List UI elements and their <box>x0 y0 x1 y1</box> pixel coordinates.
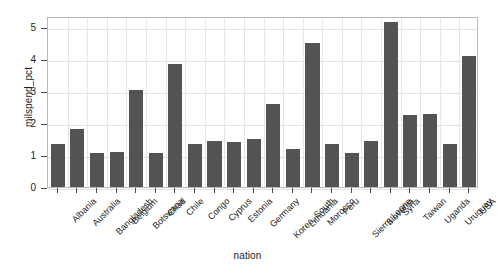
bar <box>149 153 163 187</box>
x-tick-mark <box>57 188 58 193</box>
bar <box>423 114 437 188</box>
x-tick-mark <box>429 188 430 193</box>
x-tick-label: Chad <box>165 196 187 218</box>
x-tick-mark <box>135 188 136 193</box>
bar <box>70 129 84 187</box>
x-tick-mark <box>76 188 77 193</box>
bar <box>364 141 378 187</box>
bar <box>462 56 476 187</box>
x-tick-mark <box>409 188 410 193</box>
x-tick-mark <box>233 188 234 193</box>
y-tick-label: 4 <box>10 55 36 65</box>
y-tick-label: 3 <box>10 87 36 97</box>
x-tick-mark <box>390 188 391 193</box>
bar <box>51 144 65 187</box>
bar <box>325 144 339 187</box>
plot-area <box>47 17 478 188</box>
x-tick-mark <box>351 188 352 193</box>
y-tick-label: 2 <box>10 119 36 129</box>
bar <box>443 144 457 187</box>
x-tick-mark <box>194 188 195 193</box>
x-tick-label: USA <box>478 196 498 216</box>
y-tick-label: 1 <box>10 151 36 161</box>
x-tick-mark <box>468 188 469 193</box>
x-tick-mark <box>174 188 175 193</box>
bar <box>168 64 182 187</box>
bar <box>266 104 280 187</box>
x-tick-mark <box>155 188 156 193</box>
x-axis-title: nation <box>0 250 495 261</box>
bar <box>403 115 417 187</box>
x-tick-mark <box>214 188 215 193</box>
bar <box>247 139 261 187</box>
bar <box>90 153 104 187</box>
y-tick-label: 5 <box>10 23 36 33</box>
bar <box>188 144 202 187</box>
bar <box>384 22 398 187</box>
bar <box>345 153 359 187</box>
y-tick-label: 0 <box>10 183 36 193</box>
bar <box>207 141 221 187</box>
x-tick-mark <box>253 188 254 193</box>
y-tick-mark <box>41 188 47 189</box>
x-tick-mark <box>272 188 273 193</box>
x-tick-mark <box>96 188 97 193</box>
bar <box>227 142 241 187</box>
x-tick-mark <box>116 188 117 193</box>
x-tick-label: Peru <box>341 196 362 217</box>
x-tick-mark <box>370 188 371 193</box>
gridline-horizontal <box>48 189 477 190</box>
bar <box>305 43 319 187</box>
x-tick-mark <box>311 188 312 193</box>
x-tick-mark <box>292 188 293 193</box>
x-tick-mark <box>449 188 450 193</box>
bars-layer <box>48 18 477 187</box>
bar <box>129 90 143 187</box>
x-tick-label: Chile <box>184 196 206 218</box>
bar <box>110 152 124 187</box>
x-tick-mark <box>331 188 332 193</box>
bar <box>286 149 300 187</box>
